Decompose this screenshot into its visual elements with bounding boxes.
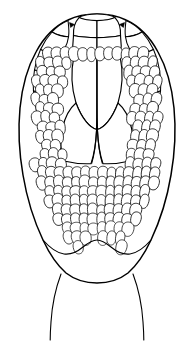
mental-scale-right bbox=[97, 18, 121, 38]
figure-container: Ventral view of reptile head scalation bbox=[0, 0, 194, 354]
neck-line-left bbox=[50, 274, 61, 340]
mental-scale-left bbox=[73, 18, 97, 38]
neck-lines-group bbox=[50, 274, 144, 340]
neck-line-right bbox=[133, 274, 144, 340]
chin-midline-groove bbox=[97, 58, 98, 129]
reptile-head-drawing bbox=[0, 0, 194, 354]
